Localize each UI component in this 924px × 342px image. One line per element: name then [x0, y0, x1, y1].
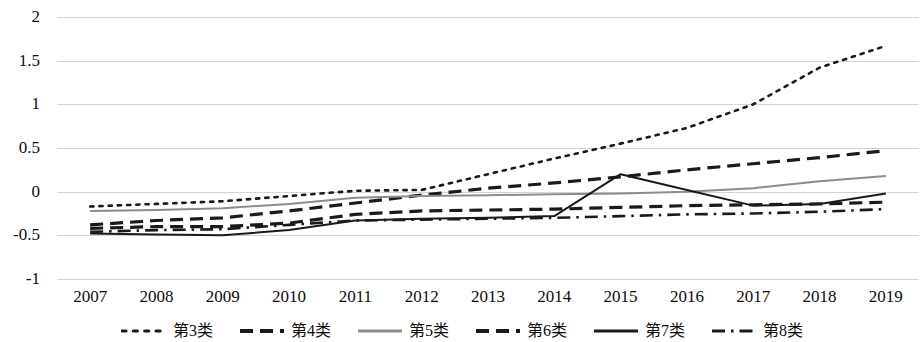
series-line-4: [90, 151, 886, 225]
legend-item-7[interactable]: 第7类: [593, 323, 685, 339]
legend-item-8[interactable]: 第8类: [711, 323, 803, 339]
x-axis-tick-label: 2008: [122, 288, 190, 305]
x-axis-tick-label: 2007: [56, 288, 124, 305]
x-axis-tick-label: 2009: [189, 288, 257, 305]
y-axis-tick-label: 0: [0, 183, 40, 200]
x-axis-tick-label: 2017: [719, 288, 787, 305]
legend-swatch-dotted: [121, 326, 167, 336]
x-axis-tick-label: 2013: [454, 288, 522, 305]
x-axis-tick-label: 2012: [388, 288, 456, 305]
gridline: [57, 279, 919, 280]
x-axis-tick-label: 2014: [520, 288, 588, 305]
legend-label: 第5类: [409, 323, 449, 339]
legend-swatch-dashdot: [711, 326, 757, 336]
legend-swatch-solid: [357, 326, 403, 336]
legend-swatch-dashed: [475, 326, 521, 336]
series-line-8: [90, 209, 886, 232]
chart-legend: 第3类第4类第5类第6类第7类第8类: [0, 320, 924, 342]
y-axis-tick-label: 1.5: [0, 52, 40, 69]
y-axis-tick-label: -1: [0, 270, 40, 287]
y-axis-tick-label: 1: [0, 95, 40, 112]
legend-swatch-solid: [593, 326, 639, 336]
legend-item-4[interactable]: 第4类: [239, 323, 331, 339]
gridline: [57, 17, 919, 18]
series-line-3: [90, 46, 886, 207]
x-axis-tick-label: 2010: [255, 288, 323, 305]
legend-label: 第7类: [645, 323, 685, 339]
line-chart: 21.510.50-0.5-1 200720082009201020112012…: [0, 0, 924, 342]
legend-label: 第6类: [527, 323, 567, 339]
legend-item-6[interactable]: 第6类: [475, 323, 567, 339]
gridline: [57, 235, 919, 236]
x-axis-tick-label: 2011: [321, 288, 389, 305]
y-axis-tick-label: 0.5: [0, 139, 40, 156]
series-line-7: [90, 174, 886, 235]
legend-swatch-dashed: [239, 326, 285, 336]
y-axis-tick-label: -0.5: [0, 226, 40, 243]
legend-item-3[interactable]: 第3类: [121, 323, 213, 339]
gridline: [57, 61, 919, 62]
gridline: [57, 192, 919, 193]
series-line-5: [90, 176, 886, 211]
gridline: [57, 148, 919, 149]
x-axis-tick-label: 2015: [587, 288, 655, 305]
gridline: [57, 104, 919, 105]
legend-item-5[interactable]: 第5类: [357, 323, 449, 339]
series-line-6: [90, 202, 886, 228]
x-axis-tick-label: 2016: [653, 288, 721, 305]
legend-label: 第3类: [173, 323, 213, 339]
x-axis-tick-label: 2018: [786, 288, 854, 305]
x-axis-tick-label: 2019: [852, 288, 920, 305]
y-axis-tick-label: 2: [0, 8, 40, 25]
legend-label: 第4类: [291, 323, 331, 339]
legend-label: 第8类: [763, 323, 803, 339]
